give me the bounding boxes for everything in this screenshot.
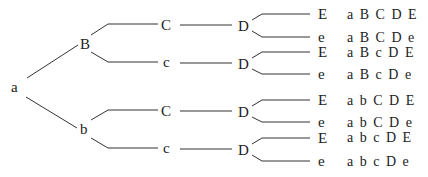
genotype-branching-diagram: a B b C c C c D D D D E e E e E e E e a … (0, 0, 428, 177)
edge-D3-E (252, 100, 310, 106)
leaf-allele: E (318, 6, 327, 22)
node-D4: D (238, 142, 249, 158)
genotype-label: a b c D e (347, 154, 410, 169)
genotype-label: a B c D e (347, 67, 413, 82)
leaf-alleles: E e E e E e E e (318, 6, 327, 169)
node-C-upper: C (161, 17, 171, 33)
node-c-lower: c (163, 140, 170, 156)
genotype-column: a B C D E a B C D e a B c D E a B c D e … (347, 7, 418, 169)
edge-b-C (91, 110, 158, 120)
edge-D4-E (252, 138, 310, 144)
edge-D3-e (252, 117, 310, 122)
edge-D2-E (252, 52, 310, 58)
edge-B-C (91, 24, 158, 35)
genotype-label: a b c D E (347, 130, 413, 145)
edges (26, 14, 310, 161)
node-labels: a B b C c C c D D D D (11, 17, 249, 158)
leaf-allele: E (318, 130, 327, 146)
leaf-allele: E (318, 92, 327, 108)
edge-D4-e (252, 155, 310, 161)
node-b: b (80, 121, 88, 137)
node-D3: D (238, 104, 249, 120)
node-B: B (80, 36, 90, 52)
edge-D2-e (252, 69, 310, 74)
leaf-allele: E (318, 44, 327, 60)
genotype-label: a b C D e (347, 115, 413, 130)
edge-D1-e (252, 31, 310, 37)
edge-a-B (27, 45, 78, 78)
edge-a-b (26, 97, 77, 128)
leaf-allele: e (318, 153, 325, 169)
genotype-label: a B C D E (347, 7, 418, 22)
leaf-allele: e (318, 114, 325, 130)
node-c-upper: c (163, 54, 170, 70)
node-D1: D (238, 18, 249, 34)
genotype-label: a B C D e (347, 30, 416, 45)
leaf-allele: e (318, 66, 325, 82)
edge-b-c (91, 138, 158, 148)
node-root: a (11, 79, 18, 95)
node-D2: D (238, 56, 249, 72)
leaf-allele: e (318, 29, 325, 45)
edge-B-c (91, 52, 158, 62)
node-C-lower: C (161, 103, 171, 119)
genotype-label: a B c D E (347, 45, 415, 60)
edge-D1-E (252, 14, 310, 20)
genotype-label: a b C D E (347, 93, 416, 108)
